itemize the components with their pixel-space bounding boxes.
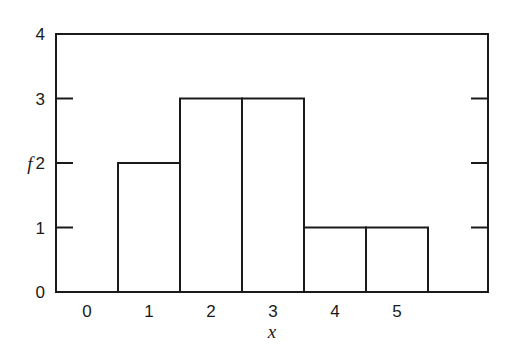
histogram-bar (242, 99, 304, 293)
x-tick-label: 3 (268, 302, 277, 321)
histogram-chart: 01234 012345 x f (0, 0, 506, 362)
x-axis-label: x (267, 321, 277, 342)
histogram-bar (118, 163, 180, 292)
y-tick-label: 4 (36, 25, 45, 44)
bars-group (118, 99, 428, 293)
y-tick-label: 0 (36, 283, 45, 302)
x-tick-label: 1 (144, 302, 153, 321)
y-axis-label: f (27, 153, 35, 174)
x-axis-ticks: 012345 (82, 302, 401, 321)
histogram-bar (304, 228, 366, 293)
x-tick-label: 0 (82, 302, 91, 321)
y-tick-label: 2 (36, 154, 45, 173)
histogram-bar (180, 99, 242, 293)
histogram-bar (366, 228, 428, 293)
x-tick-label: 5 (392, 302, 401, 321)
y-tick-label: 1 (36, 219, 45, 238)
y-tick-label: 3 (36, 90, 45, 109)
x-tick-label: 2 (206, 302, 215, 321)
x-tick-label: 4 (330, 302, 339, 321)
